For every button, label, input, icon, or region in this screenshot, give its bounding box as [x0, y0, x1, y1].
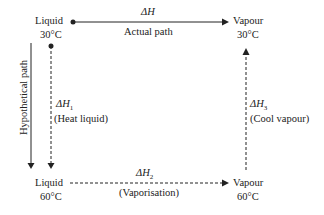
actual-path-label: Actual path [124, 26, 173, 38]
node-vapour-60-temp: 60°C [237, 191, 259, 203]
vaporisation-label: (Vaporisation) [119, 187, 179, 199]
actual-path-symbol: ΔH [141, 6, 155, 18]
node-liquid-60-temp: 60°C [40, 191, 62, 203]
node-liquid-30-temp: 30°C [40, 29, 62, 41]
node-liquid-60-state: Liquid [35, 177, 63, 189]
node-liquid-30-state: Liquid [35, 15, 63, 27]
heat-liquid-label: (Heat liquid) [54, 113, 108, 125]
cool-vapour-label: (Cool vapour) [250, 113, 309, 125]
hypothetical-path-label: Hypothetical path [18, 53, 29, 143]
node-vapour-60-state: Vapour [233, 177, 263, 189]
node-vapour-30-temp: 30°C [237, 29, 259, 41]
heat-liquid-symbol: ΔH1 [56, 98, 73, 114]
vaporisation-symbol: ΔH2 [136, 167, 153, 183]
node-vapour-30-state: Vapour [233, 15, 263, 27]
cool-vapour-symbol: ΔH3 [250, 98, 267, 114]
